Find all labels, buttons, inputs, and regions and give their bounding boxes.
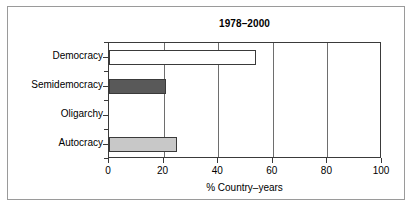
x-axis-tick-label: 40 (202, 165, 232, 176)
x-axis-tick (217, 158, 218, 163)
x-axis-tick-label: 20 (148, 165, 178, 176)
bar-semidemocracy (109, 79, 166, 94)
y-axis-labels: DemocracySemidemocracyOligarchyAutocracy (0, 42, 103, 158)
bar-autocracy (109, 137, 177, 152)
x-axis-tick (381, 158, 382, 163)
bars-layer (109, 43, 380, 157)
x-axis-tick-label: 100 (366, 165, 396, 176)
y-axis-label-democracy: Democracy (3, 50, 103, 61)
chart-figure: 1978–2000 DemocracySemidemocracyOligarch… (0, 0, 413, 210)
bar-democracy (109, 50, 256, 65)
y-axis-label-semidemocracy: Semidemocracy (3, 79, 103, 90)
x-axis-tick (108, 158, 109, 163)
x-axis-title: % Country–years (108, 182, 381, 193)
y-axis-label-autocracy: Autocracy (3, 137, 103, 148)
plot-area (108, 42, 381, 158)
y-axis-tick (103, 115, 108, 116)
y-axis-tick (103, 57, 108, 58)
x-axis-tick-label: 80 (311, 165, 341, 176)
y-axis-minor-tick (104, 100, 108, 101)
chart-title: 1978–2000 (108, 18, 381, 29)
y-axis-minor-tick (104, 129, 108, 130)
x-axis-tick (272, 158, 273, 163)
y-axis-minor-tick (104, 42, 108, 43)
y-axis-tick (103, 144, 108, 145)
x-axis-tick-label: 0 (93, 165, 123, 176)
x-axis-tick (163, 158, 164, 163)
y-axis-minor-tick (104, 71, 108, 72)
x-axis-tick (326, 158, 327, 163)
y-axis-label-oligarchy: Oligarchy (3, 108, 103, 119)
y-axis-tick (103, 86, 108, 87)
x-axis-tick-label: 60 (257, 165, 287, 176)
